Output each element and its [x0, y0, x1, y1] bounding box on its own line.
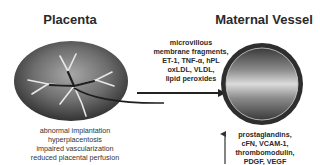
- mediator-line: membrane fragments,: [143, 47, 239, 56]
- factor-line: prostaglandins,: [222, 130, 308, 139]
- placenta-causes-label: abnormal implantation hyperplacentosis i…: [10, 126, 140, 162]
- factor-line: thrombomodulin,: [222, 148, 308, 157]
- mediators-label: microvillous membrane fragments, ET-1, T…: [143, 38, 239, 83]
- mediator-line: lipid peroxides: [143, 74, 239, 83]
- cause-line: impaired vascularization: [10, 144, 140, 153]
- mediator-line: oxLDL, VLDL,: [143, 65, 239, 74]
- factor-line: PDGF, VEGF: [222, 157, 308, 165]
- vessel-factors-label: prostaglandins, cFN, VCAM-1, thrombomodu…: [222, 130, 308, 165]
- cause-line: reduced placental perfusion: [10, 153, 140, 162]
- mediator-line: ET-1, TNF-α, hPL: [143, 56, 239, 65]
- factor-line: cFN, VCAM-1,: [222, 139, 308, 148]
- mediator-line: microvillous: [143, 38, 239, 47]
- placenta-ellipse: [14, 41, 164, 121]
- cause-line: hyperplacentosis: [10, 135, 140, 144]
- cause-line: abnormal implantation: [10, 126, 140, 135]
